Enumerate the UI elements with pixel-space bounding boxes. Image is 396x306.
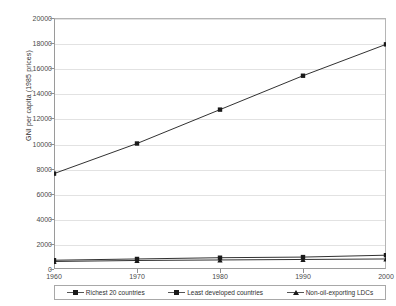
data-point-marker <box>135 141 139 145</box>
x-tick-label: 1980 <box>200 273 240 280</box>
x-tick-mark <box>220 269 221 273</box>
data-point-marker <box>218 107 222 111</box>
data-point-marker <box>301 74 305 78</box>
legend-entry: Non-oil-exporting LDCs <box>287 289 374 297</box>
x-tick-label: 2000 <box>366 273 396 280</box>
data-point-marker <box>384 42 386 46</box>
y-tick-label: 10000 <box>6 140 52 147</box>
y-tick-label: 16000 <box>6 65 52 72</box>
y-tick-label: 6000 <box>6 190 52 197</box>
y-tick-mark <box>50 269 54 270</box>
chart-container: GNI per capita (1985 prices) 02000400060… <box>0 0 396 306</box>
data-point-marker <box>384 253 386 257</box>
y-tick-label: 0 <box>6 266 52 273</box>
y-tick-label: 12000 <box>6 115 52 122</box>
y-tick-label: 4000 <box>6 215 52 222</box>
x-tick-label: 1990 <box>283 273 323 280</box>
legend-marker-icon <box>287 289 304 297</box>
y-tick-label: 20000 <box>6 15 52 22</box>
legend-label: Richest 20 countries <box>86 289 145 296</box>
x-tick-mark <box>303 269 304 273</box>
series-layer <box>54 18 386 269</box>
y-tick-label: 8000 <box>6 165 52 172</box>
x-tick-mark <box>137 269 138 273</box>
chart-legend: Richest 20 countriesLeast developed coun… <box>54 285 386 300</box>
x-tick-label: 1960 <box>34 273 74 280</box>
data-point-marker <box>54 171 56 175</box>
legend-marker-icon <box>67 289 84 297</box>
legend-label: Non-oil-exporting LDCs <box>306 289 374 296</box>
y-tick-label: 18000 <box>6 40 52 47</box>
legend-marker-icon <box>168 289 185 297</box>
legend-entry: Least developed countries <box>168 289 263 297</box>
y-tick-label: 2000 <box>6 240 52 247</box>
y-tick-label: 14000 <box>6 90 52 97</box>
legend-label: Least developed countries <box>187 289 263 296</box>
legend-entry: Richest 20 countries <box>67 289 145 297</box>
x-tick-label: 1970 <box>117 273 157 280</box>
